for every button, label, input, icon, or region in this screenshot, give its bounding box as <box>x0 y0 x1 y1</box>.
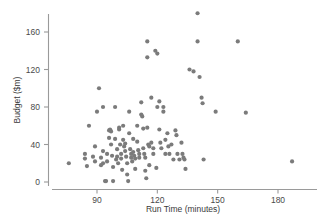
data-point <box>135 140 139 144</box>
y-tick-label: 0 <box>35 177 40 187</box>
data-point <box>214 110 218 114</box>
data-point <box>173 128 177 132</box>
data-point <box>123 141 127 145</box>
data-point <box>167 152 171 156</box>
data-point <box>111 165 115 169</box>
scatter-chart: 04080120160 Budget ($m) 90120150180 Run … <box>0 0 327 223</box>
data-point <box>115 155 119 159</box>
data-point <box>85 164 89 168</box>
data-point <box>154 166 158 170</box>
data-point <box>91 155 95 159</box>
data-point <box>133 156 137 160</box>
data-point <box>119 156 123 160</box>
data-point <box>143 156 147 160</box>
data-point <box>151 146 155 150</box>
data-point <box>163 138 167 142</box>
data-point <box>175 152 179 156</box>
x-tick-group <box>97 190 278 194</box>
y-tick-label: 40 <box>31 140 41 150</box>
data-point <box>144 176 148 180</box>
data-point <box>149 96 153 100</box>
data-point <box>180 152 184 156</box>
data-point <box>83 152 87 156</box>
data-point <box>109 129 113 133</box>
data-point <box>179 141 183 145</box>
data-point <box>195 11 199 15</box>
data-point <box>290 159 294 163</box>
data-point <box>142 152 146 156</box>
data-point <box>131 150 135 154</box>
data-point <box>67 161 71 165</box>
data-point <box>161 105 165 109</box>
data-point <box>136 148 140 152</box>
data-point <box>147 163 151 167</box>
data-point <box>104 179 108 183</box>
data-point <box>113 105 117 109</box>
data-point <box>113 137 117 141</box>
data-point <box>200 101 204 105</box>
data-point <box>101 161 105 165</box>
data-point <box>187 67 191 71</box>
y-axis-title: Budget ($m) <box>12 76 22 123</box>
data-point <box>127 110 131 114</box>
data-point <box>191 69 195 73</box>
data-point <box>105 159 109 163</box>
data-point <box>123 149 127 153</box>
data-point <box>111 179 115 183</box>
data-point <box>195 39 199 43</box>
data-point <box>182 157 186 161</box>
data-point <box>169 142 173 146</box>
x-axis: 90120150180 Run Time (minutes) <box>52 190 317 215</box>
data-point <box>155 105 159 109</box>
data-point <box>105 152 109 156</box>
data-point <box>137 156 141 160</box>
data-point <box>145 55 149 59</box>
data-point <box>236 39 240 43</box>
data-point <box>244 111 248 115</box>
data-point <box>174 133 178 137</box>
data-point <box>161 110 165 114</box>
data-point-group <box>67 11 294 183</box>
data-point <box>127 131 131 135</box>
data-point <box>201 157 205 161</box>
data-point <box>197 75 201 79</box>
data-point <box>137 152 141 156</box>
data-point <box>149 141 153 145</box>
data-point <box>87 124 91 128</box>
data-point <box>165 131 169 135</box>
data-point <box>163 152 167 156</box>
data-point <box>121 138 125 142</box>
data-point <box>183 167 187 171</box>
y-tick-group <box>44 32 49 182</box>
data-point <box>117 127 121 131</box>
data-point <box>99 156 103 160</box>
data-point <box>125 172 129 176</box>
y-tick-label-group: 04080120160 <box>26 27 40 187</box>
y-tick-label: 80 <box>31 102 41 112</box>
data-point <box>147 144 151 148</box>
data-point <box>126 179 130 183</box>
data-point <box>155 51 159 55</box>
data-point <box>151 152 155 156</box>
plot-area: 04080120160 Budget ($m) 90120150180 Run … <box>0 0 327 223</box>
data-point <box>93 159 97 163</box>
data-point <box>119 152 123 156</box>
data-point <box>141 126 145 130</box>
data-point <box>157 127 161 131</box>
data-point <box>140 114 144 118</box>
data-point <box>115 147 119 151</box>
data-point <box>116 161 120 165</box>
data-point <box>120 168 124 172</box>
y-tick-label: 120 <box>26 65 40 75</box>
data-point <box>109 142 113 146</box>
data-point <box>145 39 149 43</box>
data-point <box>93 144 97 148</box>
data-point <box>158 141 162 145</box>
data-point <box>159 146 163 150</box>
data-point <box>139 100 143 104</box>
data-point <box>97 86 101 90</box>
x-tick-label: 180 <box>271 195 285 205</box>
y-axis: 04080120160 Budget ($m) <box>12 14 49 187</box>
data-point <box>141 146 145 150</box>
data-point <box>110 154 114 158</box>
